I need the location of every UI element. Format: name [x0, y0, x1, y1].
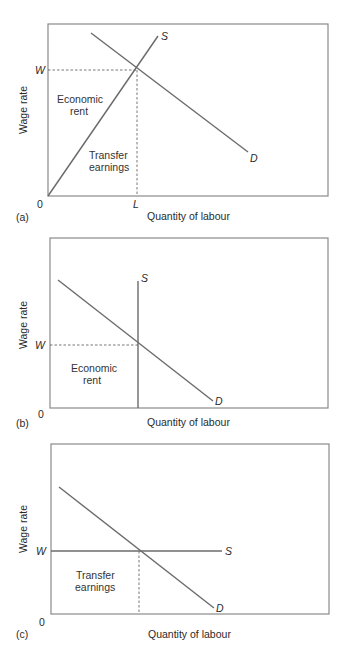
panel-c-supply-label: S	[225, 545, 232, 557]
panel-b-x-axis-label: Quantity of labour	[147, 416, 230, 428]
panel-b-w-label: W	[35, 339, 46, 351]
panel-c-tag: (c)	[16, 628, 28, 640]
panel-b-demand-label: D	[215, 395, 223, 407]
panel-c-y-axis-label: Wage rate	[17, 505, 29, 553]
panel-a: S D W L 0 Economic rent Transfer earning…	[16, 24, 328, 223]
panel-b-supply-label: S	[141, 272, 148, 284]
panel-b-y-axis-label: Wage rate	[17, 301, 29, 349]
economic-rent-diagram: S D W L 0 Economic rent Transfer earning…	[0, 0, 344, 657]
panel-b: S D W 0 Economic rent (b) Quantity of la…	[16, 238, 328, 429]
panel-a-y-axis-label: Wage rate	[17, 86, 29, 134]
panel-c-demand-label: D	[216, 602, 224, 614]
panel-c-transfer-earnings-line2: earnings	[75, 581, 115, 593]
panel-a-x-axis-label: Quantity of labour	[147, 210, 230, 222]
panel-b-origin-label: 0	[38, 408, 44, 420]
panel-c: S D W 0 Transfer earnings (c) Quantity o…	[16, 444, 329, 640]
panel-a-economic-rent-line2: rent	[70, 105, 88, 117]
panel-c-origin-label: 0	[39, 616, 45, 628]
panel-a-tag: (a)	[16, 211, 29, 223]
panel-a-supply-label: S	[161, 30, 168, 42]
panel-a-transfer-earnings-line1: Transfer	[89, 149, 128, 161]
panel-b-economic-rent-line1: Economic	[71, 362, 117, 374]
panel-a-origin-label: 0	[37, 198, 43, 210]
panel-c-x-axis-label: Quantity of labour	[148, 628, 231, 640]
panel-c-w-label: W	[36, 545, 47, 557]
panel-a-demand-label: D	[250, 152, 258, 164]
panel-a-transfer-earnings-line2: earnings	[89, 161, 129, 173]
panel-a-w-label: W	[35, 64, 46, 76]
panel-b-tag: (b)	[16, 417, 29, 429]
panel-a-l-label: L	[133, 198, 139, 210]
panel-b-economic-rent-line2: rent	[83, 374, 101, 386]
panel-a-economic-rent-line1: Economic	[57, 93, 103, 105]
panel-c-transfer-earnings-line1: Transfer	[76, 569, 115, 581]
